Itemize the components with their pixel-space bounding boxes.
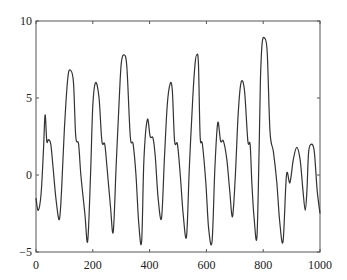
y-tick-label: −5 <box>19 245 32 259</box>
y-tick-label: 5 <box>26 91 32 105</box>
x-tick-label: 800 <box>254 258 272 272</box>
x-tick-label: 600 <box>197 258 215 272</box>
plot-frame <box>36 21 320 252</box>
data-line <box>36 37 320 245</box>
y-axis-tick-labels: −50510 <box>19 14 32 259</box>
axis-ticks <box>36 21 320 252</box>
x-tick-label: 400 <box>141 258 159 272</box>
x-axis-tick-labels: 02004006008001000 <box>33 258 332 272</box>
x-tick-label: 200 <box>84 258 102 272</box>
line-chart: 02004006008001000 −50510 <box>0 0 347 280</box>
x-tick-label: 0 <box>33 258 39 272</box>
y-tick-label: 0 <box>26 168 32 182</box>
y-tick-label: 10 <box>20 14 32 28</box>
x-tick-label: 1000 <box>308 258 332 272</box>
